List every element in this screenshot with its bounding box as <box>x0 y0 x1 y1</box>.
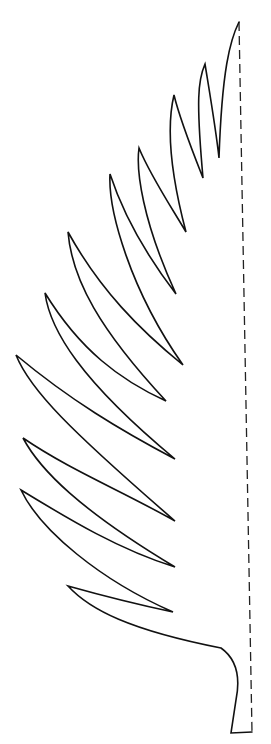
fern-frond-drawing <box>0 0 271 744</box>
drawing-canvas <box>0 0 271 744</box>
fold-line <box>239 22 252 732</box>
frond-outline <box>16 22 252 733</box>
